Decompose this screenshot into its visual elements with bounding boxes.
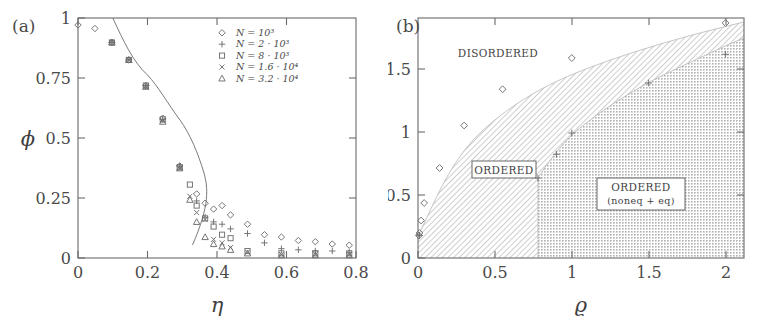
marker-diamond xyxy=(92,25,98,31)
marker-diamond xyxy=(244,221,250,227)
panel-a: 0 0.2 0.4 0.6 0.8 0 0.25 0.5 0.75 1 η ϕ … xyxy=(0,0,387,327)
marker-diamond xyxy=(193,191,199,197)
panel-a-xlabel: η xyxy=(211,293,224,317)
marker-plus xyxy=(261,240,267,246)
panel-a-yticks xyxy=(78,18,356,258)
marker-diamond xyxy=(295,237,301,243)
marker-plus xyxy=(329,248,335,254)
panel-a-fit-curve xyxy=(113,18,207,245)
marker-diamond xyxy=(210,206,216,212)
marker-diamond xyxy=(436,165,443,172)
panel-a-ytick-1: 0.25 xyxy=(35,189,71,208)
panel-a-xtick-3: 0.6 xyxy=(274,263,299,282)
panel-a-ytick-4: 1 xyxy=(61,9,71,28)
panel-b-ytick-1: 0.5 xyxy=(388,186,411,205)
panel-a-xticks xyxy=(78,18,356,258)
marker-square xyxy=(228,236,233,241)
panel-a-xtick-4: 0.8 xyxy=(343,263,368,282)
panel-a-ylabel: ϕ xyxy=(21,127,35,151)
marker-diamond xyxy=(346,242,352,248)
panel-a-ytick-3: 0.75 xyxy=(35,69,71,88)
marker-diamond xyxy=(312,238,318,244)
panel-b-xtick-4: 2 xyxy=(721,263,731,282)
panel-a-ytick-0: 0 xyxy=(61,249,71,268)
panel-a-ytick-2: 0.5 xyxy=(46,129,71,148)
marker-cross xyxy=(194,210,199,215)
panel-a-svg: 0 0.2 0.4 0.6 0.8 0 0.25 0.5 0.75 1 η ϕ … xyxy=(0,0,387,327)
marker-plus xyxy=(227,226,233,232)
marker-square xyxy=(219,53,224,58)
panel-b-ordered-noneq-label-1: ORDERED xyxy=(611,181,670,193)
panel-b-xtick-2: 1 xyxy=(567,263,577,282)
panel-b-ytick-3: 1.5 xyxy=(388,60,411,79)
panel-b-ordered-label: ORDERED xyxy=(474,164,533,176)
panel-a-legend: N = 10³N = 2 · 10³N = 8 · 10³N = 1.6 · 1… xyxy=(219,27,299,84)
panel-b-xtick-0: 0 xyxy=(413,263,423,282)
panel-b-svg: 0 0.5 1 1.5 2 0 0.5 1 1.5 ϱ ηc (b) DISOR… xyxy=(388,0,775,327)
panel-b-ordered-noneq-label-2: (noneq + eq) xyxy=(607,195,675,206)
legend-label-0: N = 10³ xyxy=(235,27,274,38)
legend-label-2: N = 8 · 10³ xyxy=(235,50,290,61)
legend-label-4: N = 3.2 · 10⁴ xyxy=(235,73,299,84)
panel-b-xlabel: ϱ xyxy=(575,293,588,317)
marker-diamond xyxy=(261,231,267,237)
marker-diamond xyxy=(219,202,225,208)
figure-container: 0 0.2 0.4 0.6 0.8 0 0.25 0.5 0.75 1 η ϕ … xyxy=(0,0,775,327)
marker-triangle xyxy=(219,243,225,249)
marker-plus xyxy=(219,41,225,47)
marker-diamond xyxy=(421,200,428,207)
marker-diamond xyxy=(418,217,425,224)
panel-b-label: (b) xyxy=(396,16,420,36)
panel-a-xtick-2: 0.4 xyxy=(204,263,229,282)
panel-b-xtick-3: 1.5 xyxy=(636,263,661,282)
panel-a-frame xyxy=(78,18,356,258)
marker-square xyxy=(220,232,225,237)
marker-diamond xyxy=(568,55,575,62)
marker-cross xyxy=(220,65,225,70)
marker-diamond xyxy=(219,30,225,36)
panel-a-data-markers xyxy=(75,22,353,258)
panel-a-xtick-1: 0.2 xyxy=(135,263,160,282)
panel-b-ytick-0: 0 xyxy=(401,249,411,268)
panel-b-xtick-1: 0.5 xyxy=(482,263,507,282)
panel-b: 0 0.5 1 1.5 2 0 0.5 1 1.5 ϱ ηc (b) DISOR… xyxy=(388,0,775,327)
marker-triangle xyxy=(219,75,225,81)
legend-label-3: N = 1.6 · 10⁴ xyxy=(235,61,299,72)
marker-plus xyxy=(244,230,250,236)
marker-diamond xyxy=(499,86,506,93)
marker-triangle xyxy=(202,234,208,240)
panel-a-label: (a) xyxy=(12,16,35,36)
marker-diamond xyxy=(227,212,233,218)
legend-label-1: N = 2 · 10³ xyxy=(235,38,290,49)
panel-b-disordered-label: DISORDERED xyxy=(458,47,538,59)
panel-b-ytick-2: 1 xyxy=(401,123,411,142)
marker-diamond xyxy=(461,122,468,129)
marker-square xyxy=(187,182,192,187)
marker-triangle xyxy=(193,219,199,225)
marker-plus xyxy=(219,221,225,227)
marker-diamond xyxy=(329,241,335,247)
panel-a-xtick-0: 0 xyxy=(73,263,83,282)
marker-diamond xyxy=(278,234,284,240)
marker-triangle xyxy=(187,197,193,203)
marker-plus xyxy=(295,247,301,253)
